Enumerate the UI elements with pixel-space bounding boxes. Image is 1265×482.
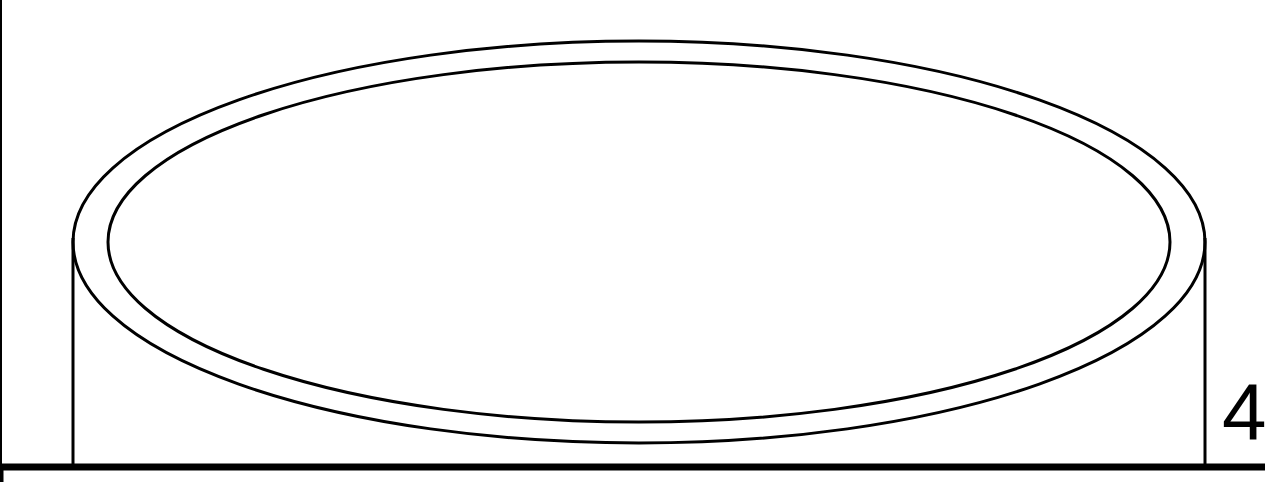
cylinder-drawing [0, 0, 1265, 482]
figure-number-label: 4 [1222, 372, 1265, 452]
diagram-canvas: 4 [0, 0, 1265, 482]
outer-rim-ellipse [73, 41, 1205, 443]
inner-rim-ellipse [108, 62, 1170, 422]
